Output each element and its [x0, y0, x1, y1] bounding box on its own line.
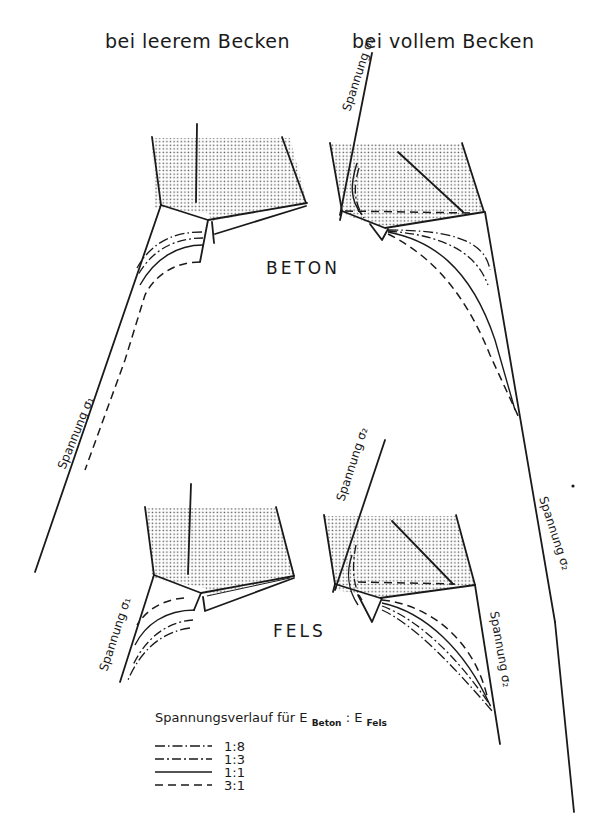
fels-left-axis-label: Spannung σ₁ [97, 595, 134, 673]
legend: Spannungsverlauf für E Beton : E Fels 1:… [155, 710, 387, 793]
section-label-fels: FELS [273, 621, 326, 641]
fels-left-curves [128, 598, 195, 680]
beton-left-curves [85, 232, 203, 470]
fels-left-block [145, 484, 295, 611]
section-label-beton: BETON [266, 258, 340, 278]
stray-dot [571, 484, 574, 487]
heading-full-basin: bei vollem Becken [352, 30, 534, 52]
legend-title: Spannungsverlauf für E Beton : E Fels [155, 710, 387, 729]
beton-right-long-axis-label: Spannung σ₂ [536, 495, 573, 573]
beton-left-block [152, 124, 307, 262]
beton-right-curves [388, 230, 520, 420]
beton-left-axis-label: Spannung σ₁ [55, 394, 97, 471]
heading-empty-basin: bei leerem Becken [105, 30, 290, 52]
stress-distribution-diagram: bei leerem Becken bei vollem Becken Span… [0, 0, 611, 822]
beton-right-block [330, 143, 485, 240]
fels-right-curves [382, 600, 493, 712]
beton-right-long-stress-line [485, 212, 555, 622]
fels-right-top-axis-label: Spannung σ₂ [334, 425, 371, 503]
fels-right-axis-label: Spannung σ₂ [487, 610, 514, 688]
fels-right-block [324, 515, 475, 622]
legend-label: 3:1 [224, 778, 245, 793]
fels-left-stress-line [120, 575, 154, 682]
beton-right-long-stress-line-ext [555, 622, 574, 812]
beton-left-stress-line [35, 205, 161, 572]
legend-item-3-1: 3:1 [155, 778, 245, 793]
